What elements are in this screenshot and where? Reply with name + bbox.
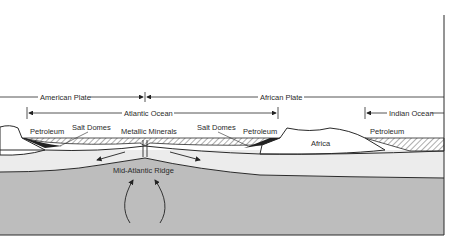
indian-ocean-label: Indian Ocean	[389, 109, 434, 118]
sediment-layer	[20, 138, 280, 146]
american-plate-label: American Plate	[40, 93, 91, 102]
mid-atlantic-ridge-label: Mid-Atlantic Ridge	[113, 166, 174, 175]
salt-domes-label-left: Salt Domes	[72, 123, 111, 132]
atlantic-ocean-label: Atlantic Ocean	[124, 109, 173, 118]
metallic-minerals-label: Metallic Minerals	[121, 127, 177, 136]
plate-tectonics-diagram: American Plate African Plate Atlantic Oc…	[0, 0, 465, 248]
africa-label: Africa	[311, 139, 331, 148]
salt-domes-label-right: Salt Domes	[197, 123, 236, 132]
african-plate-label: African Plate	[260, 93, 303, 102]
petroleum-label-left: Petroleum	[30, 127, 64, 136]
petroleum-label-mid: Petroleum	[243, 127, 277, 136]
petroleum-label-right: Petroleum	[370, 127, 404, 136]
